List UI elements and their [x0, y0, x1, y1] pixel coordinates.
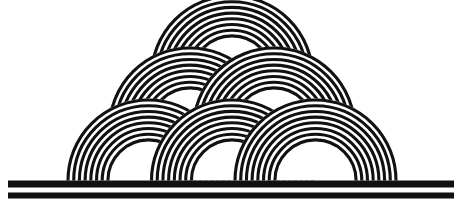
artboard: Concentric Arch Pyramid Six nested-ring … [0, 0, 462, 206]
arch-pyramid-graphic [0, 0, 462, 206]
ground-bar-upper-bar [8, 181, 454, 188]
ground-bar-lower-bar [8, 193, 454, 199]
